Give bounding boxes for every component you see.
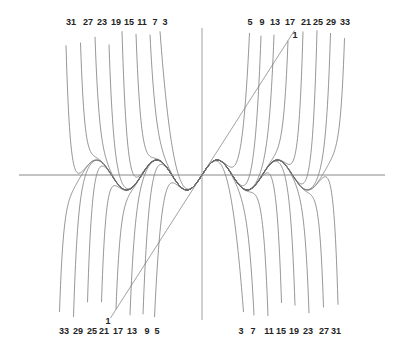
degree-label-bottom-7: 7 [250,326,255,336]
degree-label-bottom-19: 19 [289,326,299,336]
degree-label-bottom-1: 1 [105,316,110,326]
degree-label-bottom-3: 3 [238,326,243,336]
degree-label-top-13: 13 [270,17,280,27]
degree-label-bottom-11: 11 [264,326,274,336]
degree-label-top-25: 25 [313,17,323,27]
degree-label-bottom-23: 23 [303,326,313,336]
degree-label-top-29: 29 [326,17,336,27]
degree-label-top-33: 33 [340,17,350,27]
degree-label-top-31: 31 [66,17,76,27]
plot-area [0,0,404,348]
taylor-series-diagram: 3127231915117359131721252933332925211713… [0,0,404,348]
degree-label-top-9: 9 [259,17,264,27]
degree-label-bottom-25: 25 [87,326,97,336]
degree-label-top-1: 1 [292,30,297,40]
degree-label-top-19: 19 [111,17,121,27]
degree-label-top-15: 15 [124,17,134,27]
degree-label-bottom-21: 21 [99,326,109,336]
degree-label-top-17: 17 [285,17,295,27]
degree-label-bottom-17: 17 [113,326,123,336]
degree-label-bottom-31: 31 [331,326,341,336]
degree-label-bottom-33: 33 [59,326,69,336]
degree-label-top-3: 3 [162,17,167,27]
degree-label-bottom-5: 5 [154,326,159,336]
degree-label-top-27: 27 [83,17,93,27]
degree-label-top-21: 21 [301,17,311,27]
degree-label-bottom-13: 13 [127,326,137,336]
degree-label-top-23: 23 [97,17,107,27]
degree-label-bottom-15: 15 [276,326,286,336]
degree-label-bottom-29: 29 [73,326,83,336]
degree-label-top-7: 7 [152,17,157,27]
degree-label-top-5: 5 [247,17,252,27]
degree-label-bottom-27: 27 [319,326,329,336]
degree-label-bottom-9: 9 [144,326,149,336]
degree-label-top-11: 11 [137,17,147,27]
